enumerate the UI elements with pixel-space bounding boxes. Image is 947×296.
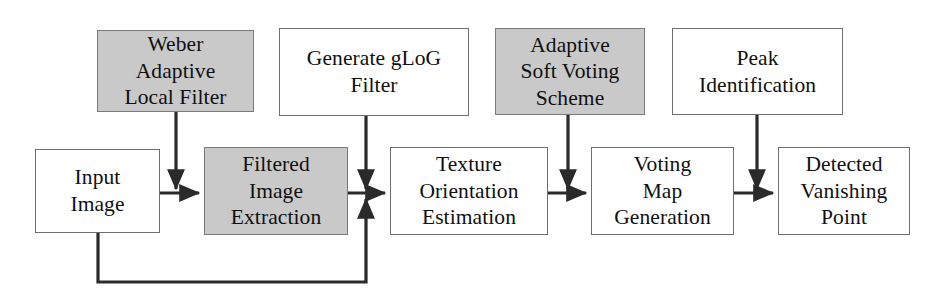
node-peak-identification: Peak Identification [672,28,843,115]
node-label: Adaptive Soft Voting Scheme [517,32,624,112]
node-filtered-image-extraction: Filtered Image Extraction [204,147,348,235]
node-adaptive-soft-voting-scheme: Adaptive Soft Voting Scheme [495,28,645,115]
node-label: Texture Orientation Estimation [415,151,522,231]
node-label: Weber Adaptive Local Filter [120,31,230,111]
node-detected-vanishing-point: Detected Vanishing Point [778,147,910,235]
node-voting-map-generation: Voting Map Generation [591,147,734,235]
node-weber-adaptive-local-filter: Weber Adaptive Local Filter [97,30,254,112]
node-label: Peak Identification [695,45,820,98]
node-label: Voting Map Generation [610,151,715,231]
node-label: Filtered Image Extraction [227,151,326,231]
node-label: Input Image [66,164,128,217]
node-generate-glog-filter: Generate gLoG Filter [279,28,469,116]
node-input-image: Input Image [35,149,160,233]
flowchart-diagram: Weber Adaptive Local Filter Generate gLo… [0,0,947,296]
node-label: Generate gLoG Filter [303,45,445,98]
node-texture-orientation-estimation: Texture Orientation Estimation [390,147,548,235]
node-label: Detected Vanishing Point [797,151,892,231]
